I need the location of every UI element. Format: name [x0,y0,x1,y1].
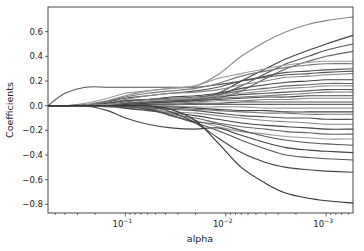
x-tick-label: 10−2 [213,217,233,229]
x-axis-ticks: 10−110−210−3 [55,213,348,229]
y-axis-ticks: 0.60.40.20.0−0.2−0.4−0.6−0.8 [22,27,48,210]
series-lines [48,17,353,203]
y-tick-label: 0.6 [29,27,43,37]
x-tick-label: 10−1 [113,217,133,229]
y-tick-label: −0.4 [22,150,43,160]
y-tick-label: −0.2 [22,125,43,135]
y-tick-label: 0.2 [29,76,43,86]
y-tick-label: −0.8 [22,199,43,209]
series-line-coef_30 [48,105,353,172]
coefficient-path-chart: 0.60.40.20.0−0.2−0.4−0.6−0.8 10−110−210−… [0,0,364,251]
y-tick-label: −0.6 [22,175,43,185]
y-axis-label: Coefficients [4,82,15,138]
y-tick-label: 0.0 [29,101,43,111]
series-line-coef_31 [48,105,353,203]
x-tick-label: 10−3 [313,217,333,229]
x-axis-label: alpha [187,233,213,244]
y-tick-label: 0.4 [29,51,43,61]
